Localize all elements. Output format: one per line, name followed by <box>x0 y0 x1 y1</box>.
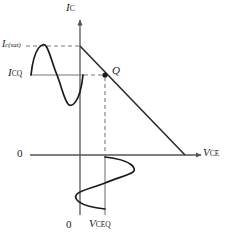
x-axis-label-base: V <box>203 146 210 158</box>
icq-label-sub: CQ <box>12 69 22 78</box>
dc-load-line <box>80 46 185 155</box>
origin-label-bottom: 0 <box>66 219 72 230</box>
q-point-label: Q <box>112 65 120 76</box>
vceq-label-base: V <box>89 217 96 229</box>
x-axis-label: VCE <box>203 147 219 158</box>
vceq-label-sub: CEQ <box>96 220 111 229</box>
y-axis-label: IC <box>66 2 75 13</box>
x-axis-label-sub: CE <box>210 149 220 158</box>
origin-label-horizontal: 0 <box>17 148 23 159</box>
load-line-plot <box>0 0 227 237</box>
icq-label: ICQ <box>8 67 22 78</box>
y-axis-label-sub: C <box>70 4 75 13</box>
ic-sat-label-sub: c(sat) <box>5 41 20 48</box>
load-line-figure: IC VCE Ic(sat) ICQ Q 0 0 VCEQ <box>0 0 227 237</box>
q-point-marker <box>102 72 107 77</box>
ic-sat-label: Ic(sat) <box>2 39 21 49</box>
vceq-label: VCEQ <box>89 218 111 229</box>
